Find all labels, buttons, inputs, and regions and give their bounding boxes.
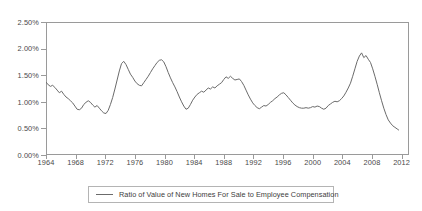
y-tick-label: 1.50% — [0, 71, 39, 80]
x-tick-mark — [165, 155, 166, 159]
y-tick-label: 2.00% — [0, 44, 39, 53]
chart-container: Ratio of Value of New Homes For Sale to … — [0, 0, 422, 211]
x-tick-mark — [372, 155, 373, 159]
y-tick-mark — [41, 49, 46, 50]
x-tick-mark — [253, 155, 254, 159]
x-tick-mark — [194, 155, 195, 159]
x-tick-label: 2012 — [382, 158, 422, 167]
y-tick-label: 2.50% — [0, 18, 39, 27]
legend-line-swatch — [96, 194, 113, 195]
y-tick-label: 1.00% — [0, 98, 39, 107]
chart-legend: Ratio of Value of New Homes For Sale to … — [88, 186, 334, 203]
x-tick-mark — [105, 155, 106, 159]
x-tick-mark — [402, 155, 403, 159]
x-tick-mark — [76, 155, 77, 159]
y-tick-mark — [41, 75, 46, 76]
y-tick-mark — [41, 22, 46, 23]
x-tick-mark — [313, 155, 314, 159]
x-tick-mark — [342, 155, 343, 159]
legend-label: Ratio of Value of New Homes For Sale to … — [119, 190, 339, 199]
x-tick-mark — [283, 155, 284, 159]
y-tick-mark — [41, 128, 46, 129]
y-tick-mark — [41, 102, 46, 103]
x-tick-mark — [224, 155, 225, 159]
x-tick-mark — [46, 155, 47, 159]
y-tick-label: 0.50% — [0, 124, 39, 133]
x-tick-mark — [135, 155, 136, 159]
plot-area — [46, 22, 409, 155]
